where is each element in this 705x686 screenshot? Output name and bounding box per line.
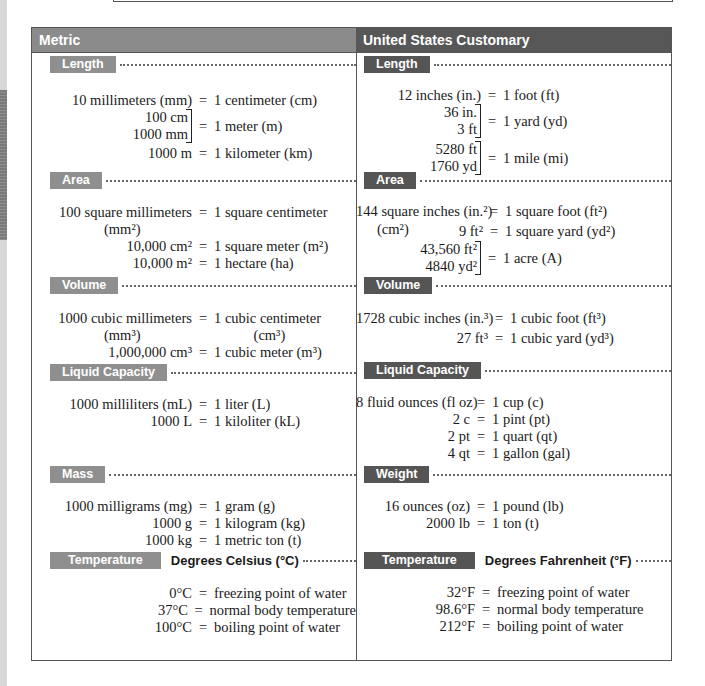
- celsius-subtitle: Degrees Celsius (°C): [171, 553, 299, 568]
- dotted-rule: [434, 64, 671, 66]
- metric-area-row-1: 100 square millimeters = 1 square centim…: [32, 204, 356, 221]
- metric-area-section: Area: [32, 171, 356, 189]
- us-length-row-2: 36 in. 3 ft = 1 yard (yd): [356, 104, 567, 138]
- metric-mass-row-2: 1000 g = 1 kilogram (kg): [32, 515, 356, 532]
- page-edge-strip: [0, 0, 7, 686]
- metric-liquid-row-2: 1000 L = 1 kiloliter (kL): [32, 413, 356, 430]
- metric-volume-row-1: 1000 cubic millimeters = 1 cubic centime…: [32, 310, 356, 327]
- us-temp-row-1: 32°F = freezing point of water: [356, 584, 629, 601]
- us-liquid-row-1: 8 fluid ounces (fl oz) = 1 cup (c): [356, 394, 544, 411]
- us-temp-row-2: 98.6°F = normal body temperature: [356, 601, 644, 618]
- dotted-rule: [171, 372, 356, 374]
- dotted-rule: [420, 180, 671, 182]
- dotted-rule: [436, 285, 671, 287]
- metric-temperature-tag: Temperature: [50, 552, 161, 569]
- us-length-row-1: 12 inches (in.) = 1 foot (ft): [356, 87, 559, 104]
- metric-temp-row-2: 37°C = normal body temperature: [32, 602, 356, 619]
- us-length-tag: Length: [364, 56, 430, 73]
- metric-mass-row-3: 1000 kg = 1 metric ton (t): [32, 532, 356, 549]
- dotted-rule: [433, 474, 671, 476]
- us-liquid-row-4: 4 qt = 1 gallon (gal): [356, 445, 570, 462]
- us-temperature-section: TemperatureDegrees Fahrenheit (°F): [356, 551, 671, 569]
- dotted-rule: [485, 370, 671, 372]
- metric-length-row-3: 1000 m = 1 kilometer (km): [32, 145, 356, 162]
- us-customary-column: United States Customary Length 12 inches…: [356, 28, 671, 660]
- us-length-row-3: 5280 ft 1760 yd = 1 mile (mi): [356, 141, 568, 175]
- metric-mass-section: Mass: [32, 465, 356, 483]
- us-liquid-row-2: 2 c = 1 pint (pt): [356, 411, 550, 428]
- dotted-rule: [303, 560, 356, 562]
- us-liquid-section: Liquid Capacity: [356, 361, 671, 379]
- us-length-section: Length: [356, 55, 671, 73]
- metric-column-header: Metric: [32, 28, 356, 53]
- dotted-rule: [106, 180, 356, 182]
- metric-length-tag: Length: [50, 56, 116, 73]
- us-temp-row-3: 212°F = boiling point of water: [356, 618, 623, 635]
- us-weight-tag: Weight: [364, 466, 429, 483]
- us-area-row-3: 43,560 ft² 4840 yd² = 1 acre (A): [356, 241, 562, 275]
- metric-area-row-3: 10,000 m² = 1 hectare (ha): [32, 255, 356, 272]
- us-weight-row-2: 2000 lb = 1 ton (t): [356, 515, 539, 532]
- top-box-edge: [113, 0, 673, 2]
- metric-length-row-1: 10 millimeters (mm) = 1 centimeter (cm): [32, 92, 356, 109]
- metric-liquid-row-1: 1000 milliliters (mL) = 1 liter (L): [32, 396, 356, 413]
- us-volume-section: Volume: [356, 276, 671, 294]
- us-liquid-tag: Liquid Capacity: [364, 362, 481, 379]
- us-liquid-row-3: 2 pt = 1 quart (qt): [356, 428, 557, 445]
- metric-temp-row-1: 0°C = freezing point of water: [32, 585, 356, 602]
- metric-liquid-section: Liquid Capacity: [32, 363, 356, 381]
- metric-mass-row-1: 1000 milligrams (mg) = 1 gram (g): [32, 498, 356, 515]
- dotted-rule: [122, 285, 356, 287]
- us-weight-section: Weight: [356, 465, 671, 483]
- metric-volume-section: Volume: [32, 276, 356, 294]
- dotted-rule: [120, 64, 356, 66]
- metric-column: Metric Length 10 millimeters (mm) = 1 ce…: [32, 28, 357, 660]
- metric-length-row-2: 100 cm 1000 mm = 1 meter (m): [32, 109, 356, 143]
- metric-temperature-section: TemperatureDegrees Celsius (°C): [32, 551, 356, 569]
- metric-volume-tag: Volume: [50, 277, 118, 294]
- us-volume-row-1: 1728 cubic inches (in.³) = 1 cubic foot …: [356, 310, 606, 327]
- metric-area-row-2: 10,000 cm² = 1 square meter (m²): [32, 238, 356, 255]
- metric-mass-tag: Mass: [50, 466, 105, 483]
- metric-volume-row-1-sub: (mm³) (cm³): [104, 327, 285, 344]
- us-area-section: Area: [356, 171, 671, 189]
- metric-volume-row-2: 1,000,000 cm³ = 1 cubic meter (m³): [32, 344, 356, 361]
- metric-area-tag: Area: [50, 172, 102, 189]
- us-volume-row-2: 27 ft³ = 1 cubic yard (yd³): [356, 330, 614, 347]
- us-column-header: United States Customary: [356, 28, 671, 53]
- page-edge-band: [0, 90, 7, 240]
- metric-temp-row-3: 100°C = boiling point of water: [32, 619, 356, 636]
- us-area-row-1: 144 square inches (in.²) = 1 square foot…: [356, 203, 607, 220]
- dotted-rule: [636, 560, 671, 562]
- us-area-row-2: 9 ft² = 1 square yard (yd²): [356, 223, 615, 240]
- metric-length-section: Length: [32, 55, 356, 73]
- fahrenheit-subtitle: Degrees Fahrenheit (°F): [485, 553, 632, 568]
- dotted-rule: [109, 474, 356, 476]
- conversion-table: Metric Length 10 millimeters (mm) = 1 ce…: [31, 27, 672, 661]
- us-weight-row-1: 16 ounces (oz) = 1 pound (lb): [356, 498, 564, 515]
- us-area-tag: Area: [364, 172, 416, 189]
- metric-liquid-tag: Liquid Capacity: [50, 364, 167, 381]
- us-temperature-tag: Temperature: [364, 552, 475, 569]
- us-volume-tag: Volume: [364, 277, 432, 294]
